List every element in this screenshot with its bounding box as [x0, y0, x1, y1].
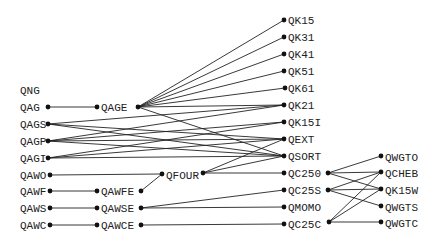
- node-label-qag: QAG: [20, 102, 40, 114]
- node-dot-qk21-in: [282, 103, 287, 108]
- node-dot-qc25s-out: [326, 188, 331, 193]
- node-dot-qc250-out: [326, 171, 331, 176]
- edges-layer: [48, 20, 381, 225]
- node-dot-qwgtc-in: [379, 220, 384, 225]
- node-label-qfour: QFOUR: [166, 170, 199, 182]
- node-label-qc25s: QC25S: [288, 185, 321, 197]
- edge-qawse-to-qmomo: [141, 207, 284, 208]
- edge-qawo-to-qfour: [50, 174, 162, 175]
- node-label-qawc: QAWC: [20, 220, 47, 232]
- node-dot-qk41-in: [282, 52, 287, 57]
- node-dot-qfour-out: [201, 171, 206, 176]
- node-dot-qawse-out: [139, 206, 144, 211]
- node-label-qaws: QAWS: [20, 203, 47, 215]
- node-label-qawo: QAWO: [20, 170, 47, 182]
- edge-qc250-to-qcheb: [328, 172, 381, 173]
- node-dot-qc25c-in: [282, 222, 287, 227]
- node-label-qk51: QK51: [288, 66, 315, 78]
- node-dot-qc25c-out: [327, 220, 332, 225]
- node-dot-qc25s-in: [282, 188, 287, 193]
- edge-qagi-to-qk15i: [48, 122, 284, 158]
- node-label-qmomo: QMOMO: [288, 202, 321, 214]
- node-dot-qage-in: [95, 105, 100, 110]
- node-dots-layer: [46, 18, 384, 228]
- node-dot-qmomo-in: [282, 205, 287, 210]
- node-dot-qcheb-in: [379, 170, 384, 175]
- node-dot-qc250-in: [282, 171, 287, 176]
- node-dot-qk51-in: [282, 69, 287, 74]
- node-dot-qk31-in: [282, 35, 287, 40]
- edge-qawce-to-qc25c: [141, 224, 284, 225]
- edge-qawse-to-qc25s: [141, 190, 284, 208]
- edge-qagp-to-qk21: [48, 105, 284, 141]
- node-dot-qext-in: [282, 137, 287, 142]
- edge-qfour-to-qsort: [203, 156, 284, 173]
- node-dot-qawfe-in: [95, 189, 100, 194]
- edge-qage-to-qk61: [138, 88, 285, 107]
- edge-qc25s-to-qk15w: [328, 189, 381, 190]
- edge-qage-to-qk41: [138, 54, 284, 107]
- node-dot-qawse-in: [95, 206, 100, 211]
- node-dot-qaws-out: [48, 206, 53, 211]
- edge-qage-to-qk15: [138, 20, 284, 107]
- node-dot-qsort-in: [282, 154, 287, 159]
- node-label-qk15w: QK15W: [385, 185, 418, 197]
- call-graph-diagram: QNGQAGQAGSQAGPQAGIQAWOQAWFQAWSQAWCQAGEQA…: [0, 0, 443, 241]
- edge-qc250-to-qwgto: [328, 156, 381, 173]
- edge-qc25c-to-qk15w: [329, 189, 381, 222]
- node-label-qwgto: QWGTO: [385, 152, 418, 164]
- node-dot-qwgts-in: [379, 204, 384, 209]
- edge-qage-to-qk31: [138, 37, 284, 107]
- node-dot-qawfe-out: [139, 189, 144, 194]
- node-dot-qage-out: [136, 105, 141, 110]
- edge-qags-to-qk21: [48, 105, 284, 124]
- node-label-qk31: QK31: [288, 32, 315, 44]
- edge-qc25c-to-qcheb: [329, 172, 381, 222]
- node-dot-qawo-out: [48, 173, 53, 178]
- edge-qagp-to-qk15i: [48, 122, 284, 141]
- node-dot-qk15-in: [282, 18, 287, 23]
- node-dot-qag-out: [46, 105, 51, 110]
- node-label-qags: QAGS: [20, 119, 47, 131]
- node-label-qc25c: QC25C: [288, 219, 321, 231]
- node-dot-qawce-in: [95, 223, 100, 228]
- node-label-qawse: QAWSE: [101, 203, 134, 215]
- node-label-qawfe: QAWFE: [101, 186, 134, 198]
- node-label-qk21: QK21: [288, 100, 315, 112]
- node-label-qage: QAGE: [101, 102, 128, 114]
- node-label-qk41: QK41: [288, 49, 315, 61]
- node-dot-qfour-in: [160, 172, 165, 177]
- node-label-qcheb: QCHEB: [385, 168, 418, 180]
- node-dot-qk15w-in: [379, 187, 384, 192]
- node-label-qagp: QAGP: [20, 136, 47, 148]
- edge-qc25s-to-qcheb: [328, 172, 381, 190]
- edge-qage-to-qk51: [138, 71, 284, 107]
- node-dot-qawc-out: [48, 223, 53, 228]
- node-label-qk15i: QK15I: [288, 117, 321, 129]
- node-label-qwgtc: QWGTC: [385, 218, 418, 230]
- edge-qawfe-to-qfour: [141, 174, 162, 191]
- node-dot-qk61-in: [283, 86, 288, 91]
- node-label-qk61: QK61: [288, 83, 315, 95]
- node-label-qc250: QC250: [288, 168, 321, 180]
- edge-qagi-to-qsort: [48, 156, 284, 158]
- node-label-qawce: QAWCE: [101, 220, 134, 232]
- node-label-qsort: QSORT: [288, 151, 321, 163]
- node-label-qk15: QK15: [288, 15, 314, 27]
- node-label-qext: QEXT: [288, 134, 315, 146]
- node-label-qagi: QAGI: [20, 153, 46, 165]
- node-label-qwgts: QWGTS: [385, 202, 418, 214]
- edge-qagi-to-qext: [48, 139, 284, 158]
- node-dot-qawf-out: [48, 189, 53, 194]
- node-dot-qk15i-in: [282, 120, 287, 125]
- node-label-qawf: QAWF: [20, 186, 46, 198]
- node-dot-qawce-out: [139, 223, 144, 228]
- node-dot-qwgto-in: [379, 154, 384, 159]
- node-label-qng: QNG: [20, 85, 40, 97]
